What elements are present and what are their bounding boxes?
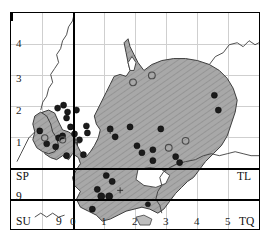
square-label-su-col-9: 9 (56, 216, 62, 228)
square-label-tl: TL (237, 171, 251, 183)
square-label-row-9: 9 (16, 191, 22, 203)
map-geometry-layer (11, 13, 259, 229)
y-tick-label-1: 1 (16, 137, 22, 148)
corner-tick-mark (10, 12, 13, 21)
y-tick-label-4: 4 (16, 38, 22, 49)
shaded-region (39, 39, 237, 221)
gridline-vertical-0 (73, 13, 75, 229)
gridline-horizontal-sp-su (11, 199, 259, 201)
y-tick-label-3: 3 (16, 73, 22, 84)
x-tick-label-1: 1 (101, 216, 107, 227)
southeast-islet (136, 215, 152, 225)
distribution-map-figure: SP TL SU TQ 9 9 4 3 2 1 0 1 2 3 4 5 (0, 0, 270, 241)
northeast-boundary-line (209, 41, 259, 65)
x-tick-label-2: 2 (132, 216, 138, 227)
square-label-tq: TQ (239, 216, 254, 228)
x-tick-label-3: 3 (163, 216, 169, 227)
x-tick-label-4: 4 (194, 216, 200, 227)
map-plot-frame: SP TL SU TQ 9 9 4 3 2 1 0 1 2 3 4 5 (10, 12, 260, 230)
gridline-horizontal-sp-tl (11, 168, 259, 170)
x-tick-label-5: 5 (225, 216, 231, 227)
x-tick-label-0: 0 (70, 216, 76, 227)
y-tick-label-2: 2 (16, 105, 22, 116)
west-coastline (41, 13, 75, 110)
square-label-sp: SP (16, 171, 29, 183)
square-label-su: SU (16, 216, 31, 228)
